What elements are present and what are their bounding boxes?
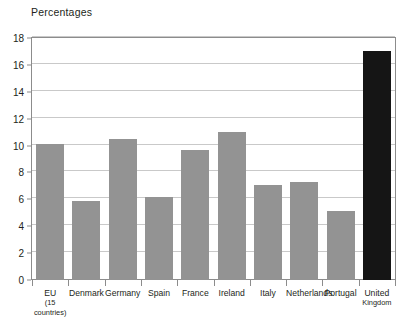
x-tick-mark: [250, 280, 251, 286]
x-label: Spain: [141, 288, 177, 298]
bar-slot: [214, 38, 250, 280]
y-axis: 024681012141618: [0, 37, 28, 281]
x-label: Italy: [250, 288, 286, 298]
bar[interactable]: [290, 182, 318, 280]
bar[interactable]: [363, 51, 391, 280]
x-axis: EU(15 countries)DenmarkGermanySpainFranc…: [32, 280, 395, 328]
bar-slot: [286, 38, 322, 280]
x-tick-mark: [286, 280, 287, 286]
y-tick-label: 8: [18, 167, 24, 178]
bar-slot: [105, 38, 141, 280]
y-tick-label: 16: [13, 59, 24, 70]
bar[interactable]: [218, 132, 246, 280]
bar-slot: [141, 38, 177, 280]
y-tick-mark: [27, 145, 31, 146]
bar-slot: [177, 38, 213, 280]
y-tick-label: 2: [18, 248, 24, 259]
x-tick-mark: [32, 280, 33, 286]
bar-slot: [359, 38, 395, 280]
x-label-sub: Kingdom: [359, 298, 395, 308]
bar[interactable]: [109, 139, 137, 280]
y-tick-label: 6: [18, 194, 24, 205]
y-tick-label: 18: [13, 33, 24, 44]
x-tick-mark: [177, 280, 178, 286]
x-label: Ireland: [214, 288, 250, 298]
bar[interactable]: [145, 197, 173, 280]
x-label-sub: (15 countries): [32, 298, 68, 317]
bar-slot: [68, 38, 104, 280]
x-tick-mark: [322, 280, 323, 286]
chart-container: Percentages 024681012141618 EU(15 countr…: [0, 0, 411, 328]
x-label: EU(15 countries): [32, 288, 68, 317]
gridline: [32, 36, 395, 37]
y-tick-label: 10: [13, 140, 24, 151]
x-label: Germany: [105, 288, 141, 298]
y-tick-mark: [27, 172, 31, 173]
bar-slot: [250, 38, 286, 280]
bar-series: [32, 38, 395, 280]
x-label: Denmark: [68, 288, 104, 298]
y-tick-mark: [27, 118, 31, 119]
x-tick-mark: [359, 280, 360, 286]
x-tick-mark: [105, 280, 106, 286]
bar[interactable]: [181, 150, 209, 280]
x-label: UnitedKingdom: [359, 288, 395, 308]
x-label: Netherlands: [286, 288, 322, 298]
y-tick-mark: [27, 91, 31, 92]
y-tick-label: 4: [18, 221, 24, 232]
bar-slot: [322, 38, 358, 280]
y-tick-mark: [27, 38, 31, 39]
x-label: Portugal: [322, 288, 358, 298]
y-tick-label: 0: [18, 275, 24, 286]
bar[interactable]: [327, 211, 355, 280]
x-tick-mark: [68, 280, 69, 286]
y-tick-mark: [27, 199, 31, 200]
bar[interactable]: [36, 144, 64, 280]
bar[interactable]: [72, 201, 100, 280]
y-tick-label: 12: [13, 113, 24, 124]
y-tick-mark: [27, 226, 31, 227]
x-tick-mark: [214, 280, 215, 286]
x-tick-mark: [141, 280, 142, 286]
y-tick-mark: [27, 64, 31, 65]
x-label: France: [177, 288, 213, 298]
bar-slot: [32, 38, 68, 280]
y-tick-label: 14: [13, 86, 24, 97]
bar[interactable]: [254, 185, 282, 280]
x-tick-mark: [395, 280, 396, 286]
y-tick-mark: [27, 280, 31, 281]
y-tick-mark: [27, 253, 31, 254]
chart-title: Percentages: [31, 6, 92, 18]
